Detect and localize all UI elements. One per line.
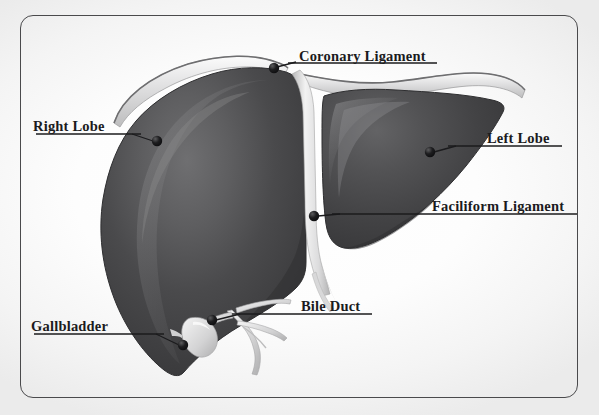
marker-dot-faciliform-ligament <box>309 211 319 221</box>
label-faciliform-ligament: Faciliform Ligament <box>432 199 564 214</box>
left-lobe-shape <box>322 89 504 249</box>
label-right-lobe: Right Lobe <box>33 119 105 134</box>
label-gallbladder: Gallbladder <box>31 319 108 334</box>
marker-dot-coronary-ligament <box>269 63 279 73</box>
marker-dot-right-lobe <box>152 136 162 146</box>
marker-dot-bile-duct <box>207 315 217 325</box>
label-bile-duct: Bile Duct <box>301 299 360 314</box>
label-coronary-ligament: Coronary Ligament <box>299 49 426 64</box>
marker-dot-left-lobe <box>425 147 435 157</box>
marker-dot-gallbladder <box>178 340 188 350</box>
liver-diagram-canvas: Coronary Ligament Right Lobe Left Lobe F… <box>0 0 599 415</box>
label-left-lobe: Left Lobe <box>487 131 550 146</box>
